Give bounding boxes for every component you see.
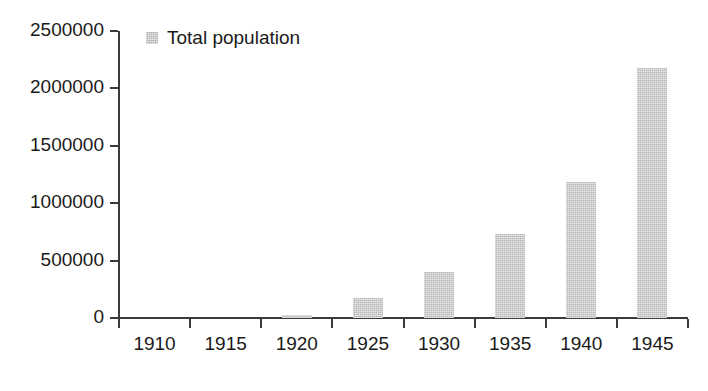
legend-label-total-population: Total population: [167, 28, 300, 47]
bar: [424, 272, 454, 318]
legend-swatch-total-population: [146, 32, 158, 44]
bar: [282, 315, 312, 318]
chart-legend: Total population: [146, 28, 300, 47]
bar: [637, 68, 667, 318]
bar: [495, 234, 525, 318]
bar: [566, 182, 596, 318]
bar-series-total-population: [0, 0, 708, 391]
bar-chart: 05000001000000150000020000002500000 1910…: [0, 0, 708, 391]
bar: [353, 298, 383, 318]
